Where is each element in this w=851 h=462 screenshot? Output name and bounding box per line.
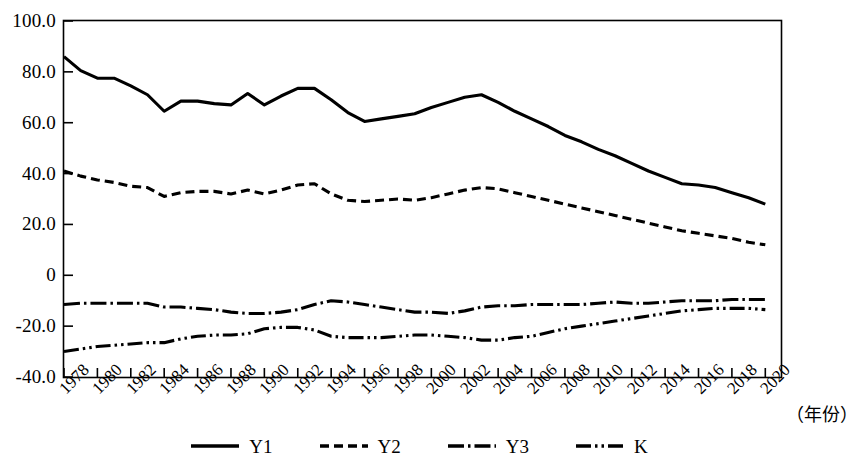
legend-item-y3[interactable]: Y3 <box>447 437 529 456</box>
x-tick-label: 2008 <box>557 361 593 397</box>
x-tick-label: 2004 <box>490 361 526 397</box>
x-tick-label: 1986 <box>190 361 226 397</box>
legend-label: K <box>634 437 648 456</box>
x-tick-label: 1998 <box>390 361 426 397</box>
legend-line-swatch-y2 <box>319 439 369 453</box>
x-tick-label: 1988 <box>223 361 259 397</box>
legend-item-y1[interactable]: Y1 <box>190 437 272 456</box>
legend-label: Y2 <box>378 437 401 456</box>
x-tick-label: 2016 <box>691 361 727 397</box>
chart-legend: Y1Y2Y3K <box>0 430 838 462</box>
x-tick-label: 1994 <box>323 361 359 397</box>
x-tick-label: 2010 <box>590 361 626 397</box>
x-tick-label: 2018 <box>724 361 760 397</box>
x-tick-label: 2014 <box>657 361 693 397</box>
x-tick-label: 1990 <box>256 361 292 397</box>
x-tick-label: 1980 <box>89 361 125 397</box>
legend-line-swatch-y3 <box>447 439 497 453</box>
x-tick-label: 1996 <box>357 361 393 397</box>
x-tick-label: 1984 <box>156 361 192 397</box>
x-tick-label: 2000 <box>423 361 459 397</box>
x-tick-label: 2012 <box>624 361 660 397</box>
x-tick-label: 2006 <box>524 361 560 397</box>
legend-item-y2[interactable]: Y2 <box>319 437 401 456</box>
legend-label: Y3 <box>506 437 529 456</box>
x-tick-label: 1982 <box>123 361 159 397</box>
x-tick-label: 2002 <box>457 361 493 397</box>
legend-label: Y1 <box>249 437 272 456</box>
x-tick-label: 1992 <box>290 361 326 397</box>
x-axis-unit-label: （年份） <box>786 406 851 424</box>
legend-line-swatch-k <box>575 439 625 453</box>
x-tick-label: 1978 <box>56 361 92 397</box>
legend-item-k[interactable]: K <box>575 437 648 456</box>
legend-line-swatch-y1 <box>190 439 240 453</box>
x-tick-label: 2020 <box>757 361 793 397</box>
